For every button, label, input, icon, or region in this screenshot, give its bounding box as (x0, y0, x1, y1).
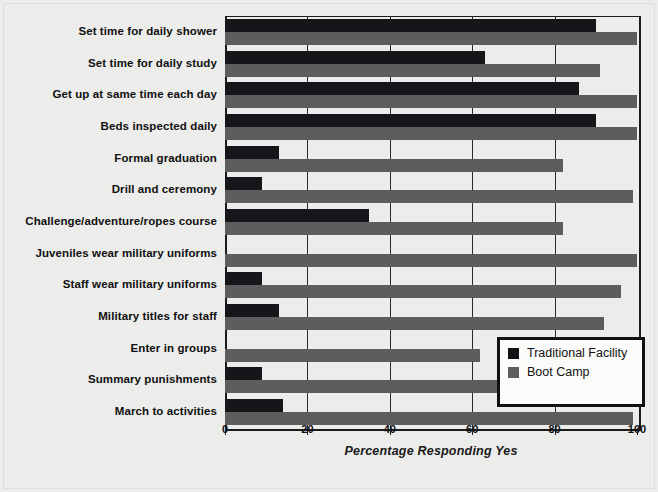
bar-boot-camp (225, 285, 621, 298)
chart-page: Set time for daily showerSet time for da… (0, 0, 658, 492)
x-tick-label: 20 (301, 423, 313, 435)
bar-boot-camp (225, 127, 637, 140)
bar-traditional (225, 209, 369, 222)
bar-boot-camp (225, 95, 637, 108)
bar-boot-camp (225, 159, 563, 172)
bar-boot-camp (225, 32, 637, 45)
category-label: Enter in groups (0, 342, 217, 354)
x-axis-title: Percentage Responding Yes (225, 444, 637, 458)
bar-boot-camp (225, 254, 637, 267)
legend-swatch-icon-boot-camp (508, 367, 519, 378)
legend-label-traditional: Traditional Facility (527, 346, 627, 360)
bar-traditional (225, 399, 283, 412)
category-label: Juveniles wear military uniforms (0, 247, 217, 259)
legend-item-boot-camp: Boot Camp (508, 365, 634, 379)
x-tick-label: 0 (222, 423, 228, 435)
chart-legend: Traditional Facility Boot Camp (497, 337, 645, 407)
bar-traditional (225, 82, 579, 95)
bar-traditional (225, 19, 596, 32)
category-label: Staff wear military uniforms (0, 278, 217, 290)
category-label: Military titles for staff (0, 310, 217, 322)
category-label: March to activities (0, 405, 217, 417)
bar-traditional (225, 114, 596, 127)
bar-boot-camp (225, 349, 480, 362)
bar-boot-camp (225, 412, 633, 425)
category-label: Challenge/adventure/ropes course (0, 215, 217, 227)
bar-traditional (225, 177, 262, 190)
bar-chart: Set time for daily showerSet time for da… (0, 0, 658, 492)
bar-traditional (225, 272, 262, 285)
bar-boot-camp (225, 380, 518, 393)
legend-swatch-icon-traditional (508, 348, 519, 359)
category-label: Beds inspected daily (0, 120, 217, 132)
category-label: Formal graduation (0, 152, 217, 164)
bar-boot-camp (225, 317, 604, 330)
category-label: Summary punishments (0, 373, 217, 385)
bar-boot-camp (225, 222, 563, 235)
bar-traditional (225, 51, 485, 64)
x-tick-label: 60 (466, 423, 478, 435)
category-label: Set time for daily study (0, 57, 217, 69)
x-tick-label: 100 (628, 423, 646, 435)
x-tick-label: 80 (548, 423, 560, 435)
bar-traditional (225, 304, 279, 317)
legend-label-boot-camp: Boot Camp (527, 365, 590, 379)
bar-traditional (225, 367, 262, 380)
bar-boot-camp (225, 64, 600, 77)
category-label: Set time for daily shower (0, 25, 217, 37)
bar-traditional (225, 146, 279, 159)
category-label: Drill and ceremony (0, 183, 217, 195)
bar-boot-camp (225, 190, 633, 203)
x-tick-label: 40 (384, 423, 396, 435)
category-label: Get up at same time each day (0, 88, 217, 100)
legend-item-traditional-facility: Traditional Facility (508, 346, 634, 360)
